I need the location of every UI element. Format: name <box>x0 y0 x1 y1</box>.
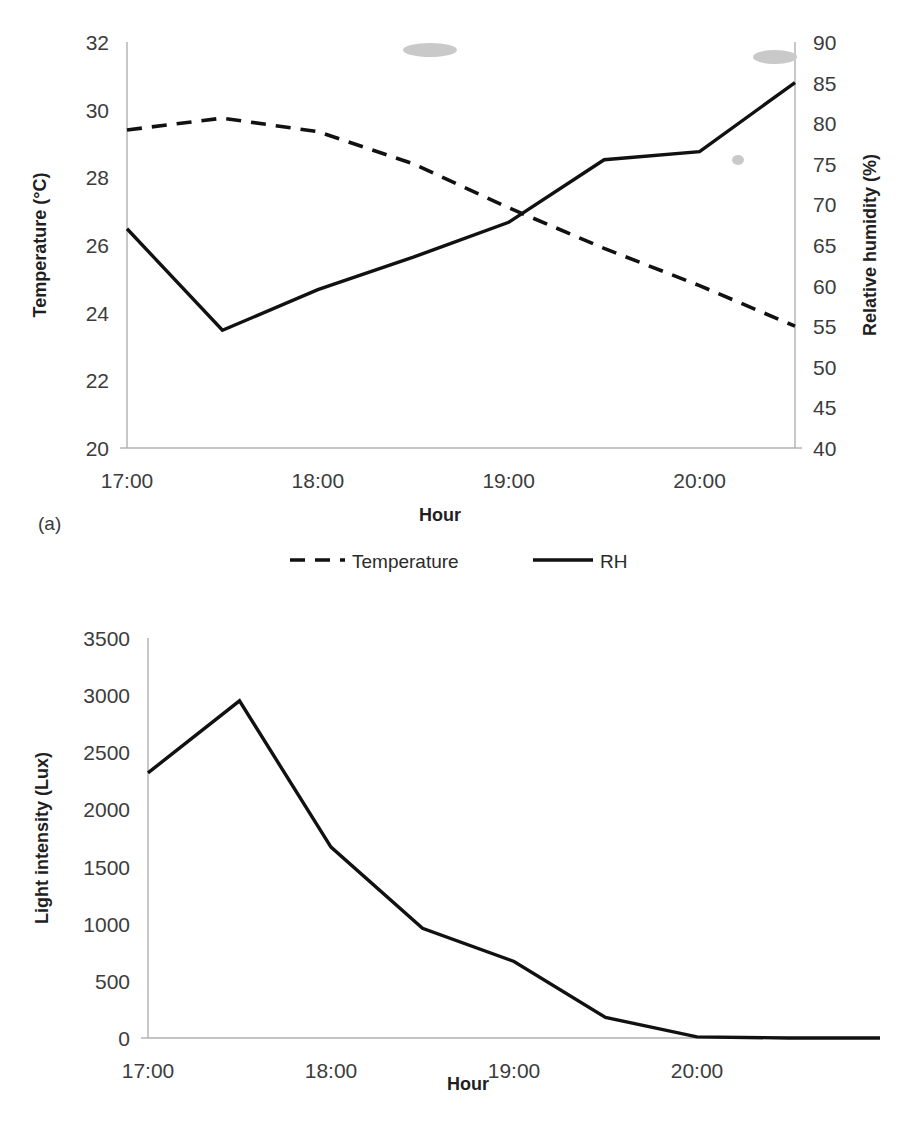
chart-b-x-tick-1: 18:00 <box>305 1059 358 1082</box>
chart-a-right-tick-50: 50 <box>813 356 836 379</box>
chart-b-canvas: 0500100015002000250030003500 17:0018:001… <box>0 600 914 1143</box>
chart-b-x-tick-0: 17:00 <box>122 1059 175 1082</box>
chart-a-right-tick-40: 40 <box>813 437 836 460</box>
chart-a-left-tick-labels: 20222426283032 <box>86 31 110 460</box>
chart-b-y-tick-3500: 3500 <box>83 627 130 650</box>
chart-b-x-tick-labels: 17:0018:0019:0020:00 <box>122 1059 724 1082</box>
chart-b-y-tick-3000: 3000 <box>83 684 130 707</box>
chart-a-right-tick-60: 60 <box>813 275 836 298</box>
chart-a-left-tick-26: 26 <box>86 234 109 257</box>
chart-b-y-tick-2500: 2500 <box>83 741 130 764</box>
chart-a-right-tick-70: 70 <box>813 193 836 216</box>
panel-a-temperature-humidity: 20222426283032 4045505560657075808590 17… <box>0 0 914 600</box>
chart-b-y-tick-500: 500 <box>95 970 130 993</box>
chart-a-left-tick-24: 24 <box>86 302 110 325</box>
chart-a-x-axis-title: Hour <box>419 505 461 525</box>
chart-a-left-tick-32: 32 <box>86 31 109 54</box>
chart-a-x-tick-labels: 17:0018:0019:0020:00 <box>101 469 726 492</box>
chart-a-legend: Temperature RH <box>290 551 627 572</box>
chart-a-right-tick-90: 90 <box>813 31 836 54</box>
chart-a-right-tick-65: 65 <box>813 234 836 257</box>
chart-a-x-tick-3: 20:00 <box>673 469 726 492</box>
chart-a-y-axis-title: Temperature (°C) <box>30 173 50 318</box>
chart-a-x-tick-2: 19:00 <box>482 469 535 492</box>
chart-a-right-tick-85: 85 <box>813 72 836 95</box>
chart-b-x-tick-2: 19:00 <box>488 1059 541 1082</box>
chart-b-x-tick-3: 20:00 <box>671 1059 724 1082</box>
panel-a-label: (a) <box>38 513 61 535</box>
chart-a-left-tick-30: 30 <box>86 99 109 122</box>
panel-b-light-intensity: 0500100015002000250030003500 17:0018:001… <box>0 600 914 1143</box>
chart-a-series-temperature <box>127 118 795 326</box>
chart-b-x-axis-title: Hour <box>447 1074 489 1094</box>
chart-a-right-tick-55: 55 <box>813 315 836 338</box>
chart-a-right-tick-75: 75 <box>813 153 836 176</box>
chart-a-left-tick-22: 22 <box>86 369 109 392</box>
chart-b-y-axis-title: Light intensity (Lux) <box>32 752 52 924</box>
chart-a-right-tick-labels: 4045505560657075808590 <box>813 31 836 460</box>
legend-label-rh: RH <box>600 551 627 572</box>
figure-container: 20222426283032 4045505560657075808590 17… <box>0 0 914 1143</box>
chart-a-right-tick-45: 45 <box>813 396 836 419</box>
chart-b-y-tick-labels: 0500100015002000250030003500 <box>83 627 130 1050</box>
chart-a-x-tick-1: 18:00 <box>292 469 345 492</box>
chart-b-y-tick-2000: 2000 <box>83 798 130 821</box>
chart-b-y-tick-0: 0 <box>118 1027 130 1050</box>
chart-a-left-tick-28: 28 <box>86 166 109 189</box>
chart-b-y-tick-1000: 1000 <box>83 913 130 936</box>
chart-a-left-tick-20: 20 <box>86 437 109 460</box>
chart-a-y2-axis-title: Relative humidity (%) <box>860 154 880 336</box>
chart-b-series-light-intensity <box>148 701 880 1038</box>
chart-a-x-tick-0: 17:00 <box>101 469 154 492</box>
chart-a-canvas: 20222426283032 4045505560657075808590 17… <box>0 0 914 600</box>
chart-a-right-tick-80: 80 <box>813 112 836 135</box>
chart-b-y-tick-1500: 1500 <box>83 856 130 879</box>
legend-label-temperature: Temperature <box>352 551 459 572</box>
scan-speck-group <box>403 43 797 165</box>
